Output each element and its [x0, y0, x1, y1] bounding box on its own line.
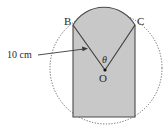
- geometry-diagram: B C O θ 10 cm: [0, 0, 166, 132]
- label-c: C: [137, 15, 144, 27]
- label-o: O: [99, 72, 107, 84]
- label-b: B: [64, 15, 71, 27]
- length-label: 10 cm: [7, 49, 32, 60]
- angle-theta-label: θ: [102, 54, 107, 65]
